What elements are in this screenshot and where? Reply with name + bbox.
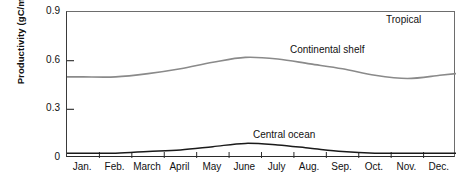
x-axis-tick-label: Jan. bbox=[66, 161, 98, 172]
series-label-continental-shelf: Continental shelf bbox=[290, 44, 365, 55]
series-line-continental-shelf bbox=[67, 57, 456, 78]
x-axis-tick-label: June bbox=[228, 161, 260, 172]
x-axis-tick-label: Nov. bbox=[390, 161, 422, 172]
y-axis-tick-label: 0.9 bbox=[28, 6, 60, 16]
x-axis-tick-label: Oct. bbox=[358, 161, 390, 172]
y-axis-tick-label: 0 bbox=[28, 152, 60, 162]
x-axis-tick-label: July bbox=[261, 161, 293, 172]
x-axis-tick-label: Feb. bbox=[98, 161, 130, 172]
region-label-tropical: Tropical bbox=[386, 14, 421, 25]
x-axis-tick-label: Sep. bbox=[325, 161, 357, 172]
x-axis-tick-label: Dec. bbox=[423, 161, 455, 172]
y-axis-tick-label: 0.3 bbox=[28, 103, 60, 113]
x-axis-tick-label: April bbox=[163, 161, 195, 172]
x-axis-tick-label: March bbox=[131, 161, 163, 172]
y-axis-title-prefix: Productivity (gC/m bbox=[15, 0, 26, 84]
x-axis-tick-label: Aug. bbox=[293, 161, 325, 172]
x-axis-tick-label: May bbox=[196, 161, 228, 172]
y-axis-ticks bbox=[67, 61, 74, 110]
y-axis-tick-label: 0.6 bbox=[28, 55, 60, 65]
series-line-central-ocean bbox=[67, 143, 456, 153]
series-label-central-ocean: Central ocean bbox=[253, 129, 315, 140]
chart-figure: Productivity (gC/m2/day) 0.90.60.30 Jan.… bbox=[0, 0, 471, 189]
